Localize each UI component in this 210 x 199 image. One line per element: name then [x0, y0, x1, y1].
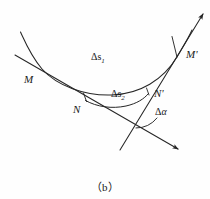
figure-container: M M' N N' Δs1 Δs2 Δα （b）: [0, 0, 210, 199]
alpha-letter: α: [161, 106, 166, 117]
label-point-n: N: [73, 104, 80, 115]
secant-line-with-arrow: [15, 55, 178, 149]
label-angle-delta-alpha: Δα: [155, 107, 167, 117]
label-arc-delta-s1: Δs1: [91, 52, 105, 65]
label-arc-delta-s2: Δs2: [111, 89, 125, 102]
delta-symbol-s1: Δs: [91, 51, 101, 62]
label-point-m: M: [24, 74, 33, 85]
tangent-line-with-arrow: [120, 14, 203, 150]
label-point-n-prime: N': [154, 88, 164, 99]
subscript-s1: 1: [101, 57, 105, 65]
tick-mark-m-prime: [172, 37, 177, 58]
tick-mark-n: [84, 93, 87, 102]
figure-drawing: [0, 0, 210, 199]
curve-long-arc: [21, 30, 193, 95]
label-point-m-prime: M': [186, 49, 198, 60]
delta-symbol-s2: Δs: [111, 88, 121, 99]
subscript-s2: 2: [121, 94, 125, 102]
figure-caption: （b）: [0, 178, 210, 194]
